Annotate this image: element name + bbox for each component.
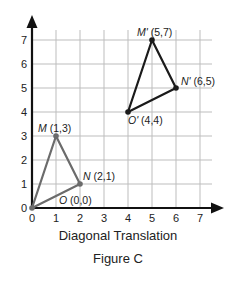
label-n: N (2,1): [83, 170, 115, 182]
x-tick-labels: 0 1 2 3 4 5 6 7: [29, 212, 203, 224]
point-o: [29, 205, 35, 211]
x-tick-3: 3: [101, 212, 107, 224]
label-m: M (1,3): [38, 122, 71, 134]
x-tick-4: 4: [125, 212, 131, 224]
x-tick-7: 7: [197, 212, 203, 224]
x-tick-6: 6: [173, 212, 179, 224]
y-tick-7: 7: [21, 34, 27, 46]
x-tick-2: 2: [77, 212, 83, 224]
y-tick-labels: 0 1 2 3 4 5 6 7: [21, 34, 27, 214]
grid-lines: [32, 30, 212, 208]
point-n: [77, 181, 83, 187]
figure-caption: Figure C: [0, 251, 236, 266]
y-axis-arrow-icon: [27, 15, 38, 28]
x-tick-1: 1: [53, 212, 59, 224]
y-tick-2: 2: [21, 154, 27, 166]
y-tick-3: 3: [21, 130, 27, 142]
point-n-prime: [173, 85, 179, 91]
y-tick-6: 6: [21, 58, 27, 70]
label-o-prime: O' (4,4): [128, 114, 163, 126]
x-tick-0: 0: [29, 212, 35, 224]
label-o: O (0,0): [59, 194, 92, 206]
y-tick-4: 4: [21, 106, 27, 118]
y-tick-5: 5: [21, 82, 27, 94]
y-tick-0: 0: [21, 202, 27, 214]
label-m-prime: M' (5,7): [137, 26, 172, 38]
x-axis-label: Diagonal Translation: [0, 228, 236, 243]
label-n-prime: N' (6,5): [181, 75, 215, 87]
y-tick-1: 1: [21, 178, 27, 190]
x-axis-arrow-icon: [211, 203, 224, 214]
point-m: [53, 133, 59, 139]
x-tick-5: 5: [149, 212, 155, 224]
point-m-prime: [149, 37, 155, 43]
